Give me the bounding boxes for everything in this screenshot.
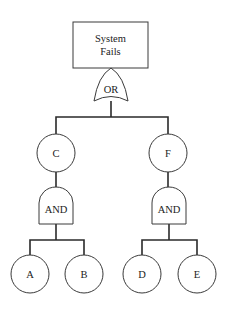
basic-event-d: D	[123, 255, 161, 293]
basic-event-b: B	[65, 255, 103, 293]
top-event-label-line2: Fails	[100, 46, 120, 57]
event-c-label: C	[52, 148, 59, 159]
and-gate-right: AND	[152, 187, 186, 224]
fault-tree-diagram: System Fails OR C F AND AND A B D E	[0, 0, 225, 316]
left-and-branch	[30, 240, 84, 255]
and-gate-left-label: AND	[45, 204, 68, 215]
event-f-label: F	[165, 148, 171, 159]
and-gate-left: AND	[39, 187, 73, 224]
right-and-branch	[142, 240, 197, 255]
event-a-label: A	[26, 269, 34, 280]
event-e-label: E	[194, 269, 200, 280]
intermediate-event-f: F	[149, 134, 187, 172]
basic-event-a: A	[11, 255, 49, 293]
event-b-label: B	[80, 269, 87, 280]
or-gate-branch	[56, 117, 168, 134]
and-gate-right-label: AND	[158, 204, 181, 215]
connectors	[30, 101, 197, 255]
intermediate-event-c: C	[37, 134, 75, 172]
basic-event-e: E	[178, 255, 216, 293]
top-event-label-line1: System	[95, 33, 126, 44]
event-d-label: D	[138, 269, 146, 280]
or-gate-label: OR	[104, 84, 119, 95]
or-gate: OR	[94, 68, 128, 101]
top-event-box: System Fails	[73, 22, 148, 68]
